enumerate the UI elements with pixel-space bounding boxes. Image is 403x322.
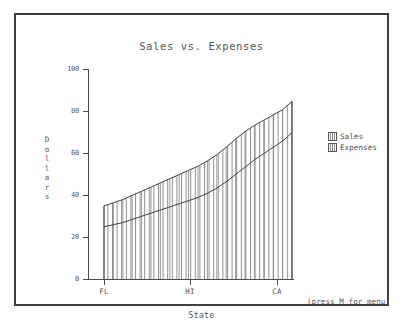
legend-item-sales[interactable]: Sales — [328, 131, 377, 142]
menu-hint-text: (press M for menu) — [307, 297, 390, 306]
y-tick-label-60: 60 — [57, 149, 79, 157]
y-tick-mark — [83, 237, 88, 238]
y-axis-title-letter: l — [42, 164, 52, 174]
y-axis-title-letter: s — [42, 192, 52, 202]
legend-label-expenses: Expenses — [340, 143, 377, 152]
window-frame: Sales vs. Expenses 100 80 60 40 20 0 FL … — [14, 13, 389, 306]
x-tick-mark — [277, 280, 278, 285]
y-tick-mark — [83, 111, 88, 112]
vertical-hatch-swatch-icon — [328, 143, 337, 152]
x-tick-label-ca: CA — [262, 287, 292, 296]
y-tick-mark — [83, 279, 88, 280]
y-axis-title-letter: r — [42, 183, 52, 193]
stacked-area-plot — [89, 70, 293, 279]
y-tick-label-40: 40 — [57, 191, 79, 199]
chart-title: Sales vs. Expenses — [16, 40, 387, 52]
y-tick-mark — [83, 195, 88, 196]
y-tick-label-0: 0 — [57, 275, 79, 283]
y-axis-title-letter: l — [42, 154, 52, 164]
x-tick-label-hi: HI — [175, 287, 205, 296]
y-axis-title-letter: D — [42, 135, 52, 145]
x-tick-mark — [190, 280, 191, 285]
y-tick-label-100: 100 — [57, 65, 79, 73]
x-axis-title: State — [16, 311, 387, 320]
x-tick-label-fl: FL — [89, 287, 119, 296]
y-axis-title: D o l l a r s — [42, 135, 52, 202]
chart-legend: Sales Expenses — [328, 131, 377, 153]
y-tick-label-80: 80 — [57, 107, 79, 115]
plot-area — [89, 70, 293, 279]
y-tick-mark — [83, 153, 88, 154]
y-tick-mark — [83, 69, 88, 70]
chart-application: Sales vs. Expenses 100 80 60 40 20 0 FL … — [0, 0, 403, 322]
x-axis-line — [88, 279, 294, 280]
y-axis-title-letter: a — [42, 173, 52, 183]
y-tick-label-20: 20 — [57, 233, 79, 241]
y-axis-title-letter: o — [42, 145, 52, 155]
vertical-hatch-swatch-icon — [328, 132, 337, 141]
x-tick-mark — [104, 280, 105, 285]
legend-item-expenses[interactable]: Expenses — [328, 142, 377, 153]
legend-label-sales: Sales — [340, 132, 363, 141]
